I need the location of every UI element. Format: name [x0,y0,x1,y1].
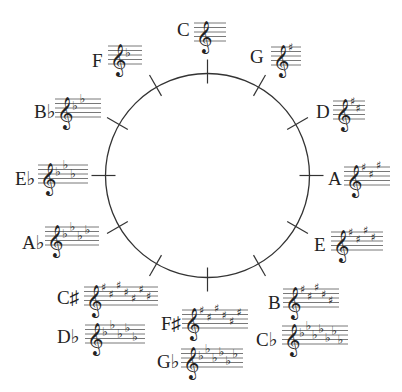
flat-icon: ♭ [225,354,231,368]
sharp-icon: ♯ [307,290,312,303]
flat-icon: ♭ [331,324,337,338]
flat-icon: ♭ [117,327,123,341]
flat-icon: ♭ [63,158,69,172]
flat-icon: ♭ [62,227,68,241]
flat-icon: ♭ [55,165,61,179]
sharp-icon: ♯ [207,311,212,324]
key-label: A♭ [22,233,45,252]
sharp-icon: ♯ [124,286,129,299]
key-label: F [92,51,103,70]
sharp-icon: ♯ [371,231,376,244]
staff: 𝄞♯♯♯♯♯♯♯ [84,279,160,319]
flat-icon: ♭ [72,99,78,113]
key-label: E [314,235,326,254]
flat-icon: ♭ [85,223,91,237]
treble-clef-icon: 𝄞 [196,20,213,54]
sharp-icon: ♯ [356,102,361,115]
sharp-icon: ♯ [222,309,227,322]
sharp-icon: ♯ [139,283,144,296]
sharp-icon: ♯ [363,224,368,237]
flat-icon: ♭ [198,349,204,363]
staff: 𝄞♭♭♭♭♭♭ [181,341,245,381]
flat-icon: ♭ [125,321,131,335]
sharp-icon: ♯ [199,304,204,317]
staff: 𝄞♯♯ [333,93,367,133]
key-label: B♭ [34,102,56,121]
flat-icon: ♭ [318,322,324,336]
flat-icon: ♭ [299,326,305,340]
staff: 𝄞♯♯♯♯ [331,224,385,264]
key-label: D♭ [57,327,80,346]
flat-icon: ♭ [102,325,108,339]
staff: 𝄞♯♯♯♯♯ [283,281,341,321]
staff: 𝄞♭♭♭♭ [45,219,101,259]
sharp-icon: ♯ [361,161,366,174]
sharp-icon: ♯ [237,306,242,319]
sharp-icon: ♯ [321,288,326,301]
staff: 𝄞♯♯♯♯♯♯ [182,302,250,342]
flat-icon: ♭ [305,319,311,333]
key-label: G [250,47,264,66]
sharp-icon: ♯ [300,283,305,296]
sharp-icon: ♯ [229,315,234,328]
flat-icon: ♭ [125,46,131,60]
sharp-icon: ♯ [376,159,381,172]
sharp-icon: ♯ [288,41,293,54]
staff: 𝄞♭ [108,38,144,78]
key-label: A [328,169,342,188]
staff: 𝄞 [194,15,228,55]
flat-icon: ♭ [110,318,116,332]
key-label: G♭ [157,352,180,371]
sharp-icon: ♯ [116,279,121,292]
flat-icon: ♭ [70,220,76,234]
flat-icon: ♭ [80,92,86,106]
key-label: D [316,102,330,121]
flat-icon: ♭ [232,347,238,361]
sharp-icon: ♯ [314,281,319,294]
key-label: F♯ [161,314,181,333]
sharp-icon: ♯ [356,233,361,246]
flat-icon: ♭ [70,167,76,181]
sharp-icon: ♯ [348,226,353,239]
circle-of-fifths-diagram: C𝄞G𝄞♯D𝄞♯♯A𝄞♯♯♯E𝄞♯♯♯♯B𝄞♯♯♯♯♯C♭𝄞♭♭♭♭♭♭♭F♯𝄞… [0,0,402,392]
key-label: E♭ [15,169,36,188]
flat-icon: ♭ [132,330,138,344]
staff: 𝄞♭♭♭♭♭ [85,317,147,357]
flat-icon: ♭ [219,345,225,359]
sharp-icon: ♯ [131,292,136,305]
staff: 𝄞♭♭♭ [38,157,90,197]
flat-icon: ♭ [338,333,344,347]
flat-icon: ♭ [312,328,318,342]
flat-icon: ♭ [212,351,218,365]
staff: 𝄞♭♭ [55,91,103,131]
sharp-icon: ♯ [369,168,374,181]
staff: 𝄞♯ [271,39,303,79]
sharp-icon: ♯ [214,302,219,315]
flat-icon: ♭ [325,331,331,345]
sharp-icon: ♯ [146,290,151,303]
key-label: C [177,20,190,39]
circle-ring [106,74,310,278]
staff: 𝄞♯♯♯ [344,159,392,199]
staff: 𝄞♭♭♭♭♭♭♭ [282,318,350,358]
sharp-icon: ♯ [328,294,333,307]
sharp-icon: ♯ [101,281,106,294]
sharp-icon: ♯ [109,288,114,301]
flat-icon: ♭ [77,229,83,243]
key-label: C♯ [57,288,79,307]
key-label: C♭ [256,330,278,349]
key-label: B [268,293,281,312]
flat-icon: ♭ [205,342,211,356]
